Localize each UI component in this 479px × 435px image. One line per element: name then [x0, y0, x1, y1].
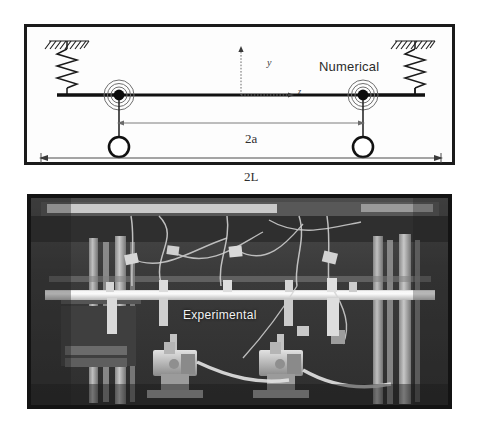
left-pulley-core [114, 90, 125, 101]
photo-vignette-bottom [31, 384, 448, 405]
axis-y-arrowhead [238, 46, 243, 52]
upper-secondary-beam [49, 276, 431, 282]
dimension-line-2L [41, 153, 441, 163]
numerical-schematic-drawing [27, 27, 458, 168]
dimension-label-2L: 2L [244, 169, 258, 185]
dim-2L-right-arrowhead [434, 155, 443, 161]
coordinate-axes [241, 51, 289, 95]
axis-z-arrowhead [288, 92, 294, 97]
right-hanging-mass [353, 137, 373, 157]
photo-vignette-left [31, 198, 71, 405]
left-spring-icon [57, 41, 77, 95]
dimension-label-2a: 2a [245, 131, 257, 147]
ceiling-light-strip [47, 204, 277, 213]
experimental-photo-panel [27, 194, 452, 409]
photo-vignette-right [413, 198, 448, 405]
numerical-title: Numerical [319, 59, 379, 74]
left-hanging-mass [109, 137, 129, 157]
dim-2a-left-arrowhead [117, 120, 124, 125]
axis-y-label: y [267, 57, 271, 68]
figure-container: y z Numerical 2a 2L [0, 0, 479, 435]
experimental-title: Experimental [183, 308, 257, 322]
dim-2a-right-arrowhead [358, 120, 365, 125]
left-equipment-bench [61, 298, 141, 367]
experimental-photograph [31, 198, 448, 405]
right-pulley-core [358, 90, 369, 101]
main-beam-highlight [45, 291, 435, 294]
right-spring-icon [405, 41, 425, 95]
right-ceiling-hatch [391, 41, 435, 49]
dim-2L-left-arrowhead [39, 155, 48, 161]
axis-z-label: z [298, 87, 301, 96]
numerical-schematic-panel: y z Numerical 2a 2L [24, 24, 455, 165]
